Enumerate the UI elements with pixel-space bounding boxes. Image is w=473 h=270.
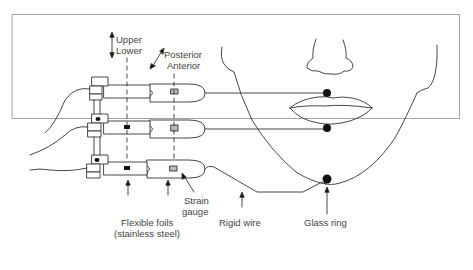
middle-screw (96, 117, 101, 121)
upper-strain-gauge (171, 89, 178, 94)
label-lower: Lower (116, 45, 142, 56)
vertical-arrow-bottom (110, 53, 114, 58)
lower-clamp-top (92, 155, 108, 164)
label-posterior: Posterior (164, 49, 202, 60)
middle-strain-gauge (171, 125, 178, 131)
cheek-right-outline (417, 45, 437, 93)
label-upper: Upper (116, 34, 142, 45)
lower-transducer (30, 155, 205, 178)
upper-lip-marker (323, 89, 331, 97)
label-rigid-wire: Rigid wire (219, 217, 261, 228)
jaw-right-outline (322, 93, 417, 185)
lower-lip-outline (290, 108, 372, 124)
jaw-left-outline (221, 47, 326, 184)
lip-line (290, 105, 372, 108)
label-gauge: gauge (182, 206, 208, 217)
figure-border-visible (13, 15, 460, 119)
label-glass-ring: Glass ring (304, 217, 347, 228)
nose-outline (307, 39, 353, 74)
middle-clamp-bot (88, 131, 101, 137)
label-stainless-steel: (stainless steel) (114, 228, 180, 239)
glass-ring-marker (323, 175, 332, 184)
foil-pointer-1-head (126, 180, 130, 185)
upper-clamp-top (92, 77, 108, 86)
lower-lip-marker (323, 124, 331, 132)
label-flexible-foils: Flexible foils (121, 217, 173, 228)
rigid-wire (205, 166, 322, 192)
glass-ring-pointer-head (325, 187, 329, 192)
upper-clamp-mid (90, 86, 102, 94)
upper-clamp-bot (90, 94, 102, 100)
lower-strain-gauge (170, 166, 177, 171)
lower-clamp-bot (87, 172, 100, 178)
lower-clamp-mid (87, 164, 100, 172)
foil-pointer-2-head (166, 180, 170, 185)
rigid-wire-pointer-head (240, 192, 244, 197)
label-anterior: Anterior (167, 60, 200, 71)
vertical-arrow-top (110, 32, 114, 37)
lower-screw (95, 158, 100, 162)
lower-cable (30, 168, 87, 171)
ap-axis-arrow (152, 51, 162, 67)
label-strain: Strain (184, 195, 209, 206)
middle-transducer (30, 114, 205, 155)
lower-foil-marker (124, 166, 130, 170)
lip-tracking-figure (0, 0, 473, 270)
middle-cable (30, 127, 88, 155)
middle-clamp-mid (88, 123, 101, 131)
ap-arrow-bottom (150, 64, 155, 69)
